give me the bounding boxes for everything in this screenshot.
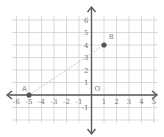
x-tick-label: -4 xyxy=(38,98,45,106)
x-tick-label: -2 xyxy=(63,98,70,106)
y-tick-label: 1 xyxy=(84,79,88,87)
coordinate-plane: AB -6-5-4-3-2-112345654321-1O xyxy=(0,0,164,137)
x-tick-label: -5 xyxy=(26,98,33,106)
axes xyxy=(7,7,157,134)
x-tick-label: 2 xyxy=(114,98,118,106)
x-tick-label: -3 xyxy=(51,98,58,106)
x-tick-label: 4 xyxy=(139,98,144,106)
y-tick-label: -1 xyxy=(82,104,89,112)
x-tick-label: -6 xyxy=(13,98,20,106)
origin-label: O xyxy=(95,85,101,93)
x-tick-label: 3 xyxy=(127,98,131,106)
y-tick-label: 6 xyxy=(84,17,89,25)
point-label-B: B xyxy=(109,33,114,41)
point-label-A: A xyxy=(22,85,27,93)
x-tick-label: 5 xyxy=(152,98,156,106)
y-tick-label: 3 xyxy=(84,54,88,62)
y-tick-label: 5 xyxy=(84,29,88,37)
point-B xyxy=(101,42,106,47)
tick-labels: -6-5-4-3-2-112345654321-1O xyxy=(13,17,156,113)
y-tick-label: 2 xyxy=(84,67,88,75)
x-tick-label: 1 xyxy=(102,98,106,106)
point-A xyxy=(26,92,31,97)
y-tick-label: 4 xyxy=(84,42,89,50)
